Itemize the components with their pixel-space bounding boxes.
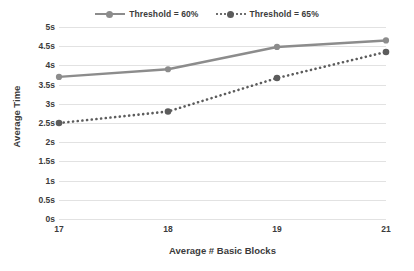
x-axis-tick-label: 18 (148, 224, 188, 234)
y-axis-tick-label: 0s (9, 214, 55, 224)
series-1 (56, 37, 389, 80)
y-axis-tick-label: 0.5s (9, 195, 55, 205)
data-point-marker[interactable] (383, 49, 390, 56)
dotted-line-marker-icon (216, 9, 246, 19)
gridline (59, 219, 386, 220)
chart-legend: Threshold = 60% Threshold = 65% (0, 9, 414, 19)
legend-label-threshold-60: Threshold = 60% (129, 9, 198, 19)
series-2 (56, 49, 390, 127)
data-point-marker[interactable] (383, 37, 389, 43)
x-axis-tick-label: 17 (39, 224, 79, 234)
x-axis-ticks: 17181921 (59, 224, 386, 238)
x-axis-tick-label: 19 (257, 224, 297, 234)
data-point-marker[interactable] (56, 120, 63, 127)
y-axis-tick-label: 5s (9, 22, 55, 32)
series-layer (59, 27, 386, 219)
solid-line-marker-icon (95, 9, 125, 19)
x-axis-title: Average # Basic Blocks (59, 245, 386, 256)
series-line (59, 52, 386, 123)
plot-area (59, 27, 386, 219)
legend-label-threshold-65: Threshold = 65% (250, 9, 319, 19)
data-point-marker[interactable] (165, 66, 171, 72)
line-chart: Threshold = 60% Threshold = 65% 5s4.5s4s… (0, 0, 414, 271)
legend-item-threshold-60[interactable]: Threshold = 60% (95, 9, 198, 19)
x-axis-tick-label: 21 (366, 224, 406, 234)
data-point-marker[interactable] (165, 108, 172, 115)
series-line (59, 40, 386, 76)
y-axis-title: Average Time (11, 57, 22, 177)
data-point-marker[interactable] (274, 44, 280, 50)
legend-item-threshold-65[interactable]: Threshold = 65% (216, 9, 319, 19)
data-point-marker[interactable] (274, 75, 281, 82)
y-axis-tick-label: 1s (9, 176, 55, 186)
y-axis-tick-label: 4.5s (9, 41, 55, 51)
data-point-marker[interactable] (56, 74, 62, 80)
